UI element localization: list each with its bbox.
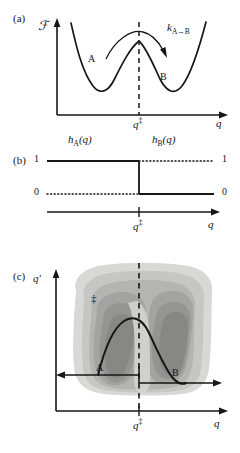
panel-a-tag: (a) <box>13 12 25 24</box>
panel-c-y-axis <box>53 269 60 411</box>
panel-b-tag: (b) <box>13 154 26 166</box>
panel-a-y-axis-label: ℱ <box>38 18 48 34</box>
panel-a-x-axis-label: q <box>216 117 222 129</box>
rate-constant-label: kA→B <box>167 21 190 36</box>
panel-b-x-axis-label: q <box>208 218 214 230</box>
figure-root: (a) ℱ A B kA→B q‡ q (b) 1 0 1 0 hA(q) hB… <box>0 0 240 453</box>
panel-c-tag: (c) <box>13 270 25 282</box>
panel-a-well-b-label: B <box>160 71 167 82</box>
reaction-arrow <box>106 32 167 59</box>
panel-c-y-axis-label: q′ <box>33 272 41 284</box>
panel-b-y-bottom-left: 0 <box>34 186 39 197</box>
panel-a-well-a-label: A <box>88 53 95 64</box>
panel-c-x-axis <box>56 408 228 415</box>
saddle-point-label: ‡ <box>91 292 97 304</box>
panel-c-basin-b-label: B <box>172 367 179 378</box>
panel-a-barrier-tick-label: q‡ <box>133 116 143 130</box>
panel-b-y-top-right: 1 <box>222 153 227 164</box>
panel-c-basin-a-label: A <box>96 362 103 373</box>
panel-a-y-axis <box>54 18 61 115</box>
hA-function-label: hA(q) <box>68 133 92 148</box>
panel-c-x-axis-label: q <box>214 417 220 429</box>
panel-c-barrier-tick-label: q‡ <box>133 417 143 431</box>
panel-b-barrier-tick-label: q‡ <box>133 218 143 232</box>
panel-a-x-axis <box>57 112 228 119</box>
hB-function-label: hB(q) <box>152 133 175 148</box>
panel-b-y-top-left: 1 <box>34 153 39 164</box>
panel-a-graphic <box>0 0 240 120</box>
panel-b-x-axis <box>47 209 220 216</box>
panel-b-y-bottom-right: 0 <box>222 186 227 197</box>
